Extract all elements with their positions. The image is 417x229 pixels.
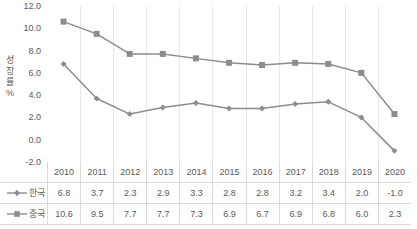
table-cell-korea: 2.3 [113, 182, 146, 203]
table-cell-china: 6.0 [345, 203, 378, 224]
y-tick-label: 0.0 [28, 135, 41, 144]
table-cell-china: 9.5 [80, 203, 113, 224]
y-tick-label: 6.0 [28, 68, 41, 77]
table-header-cell: 2011 [80, 162, 113, 182]
data-point-marker [193, 100, 199, 106]
table-cell-korea: 2.8 [212, 182, 245, 203]
table-row-korea: 한국 6.83.72.32.93.32.82.83.23.42.0-1.0 [0, 182, 411, 204]
table-header-cell: 2010 [47, 162, 80, 182]
table-cell-korea: 6.8 [47, 182, 80, 203]
table-header-cell: 2018 [312, 162, 345, 182]
data-table: 2010201120122013201420152016201720182019… [0, 162, 411, 224]
table-header-cell: 2013 [146, 162, 179, 182]
legend-label-korea: 한국 [29, 186, 45, 199]
legend-label-china: 중국 [29, 207, 45, 220]
table-cell-china: 2.3 [378, 203, 411, 224]
y-axis-tick-labels: 12.010.08.06.04.02.00.0-2.0 [0, 0, 45, 156]
table-row-header: 2010201120122013201420152016201720182019… [0, 162, 411, 183]
table-header-cells: 2010201120122013201420152016201720182019… [47, 162, 411, 182]
data-point-marker [127, 51, 133, 57]
table-cell-korea: 3.4 [312, 182, 345, 203]
series-line-china [64, 22, 395, 114]
data-point-marker [160, 51, 166, 57]
table-header-cell: 2017 [279, 162, 312, 182]
table-cell-korea: 3.3 [179, 182, 212, 203]
legend-item-korea[interactable]: 한국 [0, 182, 47, 203]
table-cells-china: 10.69.57.77.77.36.96.76.96.86.02.3 [47, 203, 411, 224]
table-cell-china: 6.8 [312, 203, 345, 224]
series-canvas [47, 6, 411, 162]
table-cell-china: 6.7 [246, 203, 279, 224]
table-cells-korea: 6.83.72.32.93.32.82.83.23.42.0-1.0 [47, 182, 411, 203]
table-cell-korea: 2.8 [246, 182, 279, 203]
diamond-marker-icon [7, 188, 27, 198]
table-header-cell: 2019 [345, 162, 378, 182]
table-cell-china: 10.6 [47, 203, 80, 224]
table-header-cell: 2016 [246, 162, 279, 182]
data-point-marker [193, 55, 199, 61]
table-cell-korea: 3.7 [80, 182, 113, 203]
data-point-marker [94, 31, 100, 37]
table-cell-korea: -1.0 [378, 182, 411, 203]
y-tick-label: 8.0 [28, 46, 41, 55]
data-point-marker [61, 19, 67, 25]
data-point-marker [358, 70, 364, 76]
data-point-marker [259, 62, 265, 68]
data-point-marker [160, 104, 166, 110]
data-point-marker [325, 61, 331, 67]
data-point-marker [226, 106, 232, 112]
table-header-cell: 2015 [212, 162, 245, 182]
table-cell-korea: 2.0 [345, 182, 378, 203]
y-tick-label: 4.0 [28, 91, 41, 100]
table-cell-china: 6.9 [212, 203, 245, 224]
y-tick-label: 12.0 [23, 2, 41, 11]
legend-item-china[interactable]: 중국 [0, 203, 47, 224]
data-point-marker [259, 106, 265, 112]
data-point-marker [127, 111, 133, 117]
square-marker-icon [7, 209, 27, 219]
table-cell-korea: 3.2 [279, 182, 312, 203]
table-header-cell: 2020 [378, 162, 411, 182]
data-point-marker [292, 60, 298, 66]
table-cell-china: 7.3 [179, 203, 212, 224]
table-cell-china: 7.7 [113, 203, 146, 224]
data-point-marker [292, 101, 298, 107]
table-header-cell: 2014 [179, 162, 212, 182]
chart-root: 성 장 률 % 12.010.08.06.04.02.00.0-2.0 2010… [0, 0, 417, 229]
data-point-marker [325, 99, 331, 105]
table-header-cell: 2012 [113, 162, 146, 182]
table-cell-china: 6.9 [279, 203, 312, 224]
table-cell-china: 7.7 [146, 203, 179, 224]
y-tick-label: 2.0 [28, 113, 41, 122]
y-tick-label: 10.0 [23, 24, 41, 33]
table-corner-cell [0, 162, 47, 182]
plot-area [47, 6, 411, 162]
table-cell-korea: 2.9 [146, 182, 179, 203]
data-point-marker [226, 60, 232, 66]
data-point-marker [391, 111, 397, 117]
table-row-china: 중국 10.69.57.77.77.36.96.76.96.86.02.3 [0, 203, 411, 225]
